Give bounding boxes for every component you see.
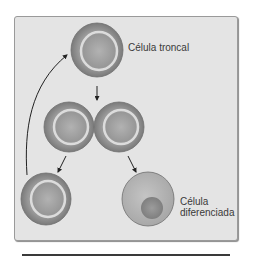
stem-cell-top (71, 23, 123, 77)
differentiated-cell-label: Célula diferenciada (180, 196, 234, 218)
stem-cell-label: Célula troncal (128, 42, 189, 53)
self-renewal-arrow (58, 156, 66, 172)
differentiation-arrow (128, 156, 136, 172)
self-renewed-cell (21, 173, 71, 225)
daughter-cell-left (44, 102, 94, 152)
differentiated-cell-label-line1: Célula (180, 196, 234, 207)
daughter-cell-right (94, 102, 144, 152)
differentiated-cell (122, 172, 174, 226)
differentiated-cell-label-line2: diferenciada (180, 207, 234, 218)
